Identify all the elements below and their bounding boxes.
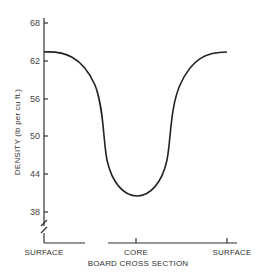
y-tick-label: 50: [30, 131, 40, 141]
y-tick-label: 44: [30, 169, 40, 179]
density-chart: 68 62 56 50 44 38 SURFACE CORE SURFACE B…: [0, 0, 258, 278]
x-axis-title: BOARD CROSS SECTION: [88, 259, 189, 268]
x-tick-label-core: CORE: [124, 248, 148, 257]
y-tick-label: 68: [30, 18, 40, 28]
y-axis-title: DENSITY (lb per cu ft.): [13, 89, 22, 175]
x-axis: [44, 238, 237, 243]
x-tick-labels: SURFACE CORE SURFACE: [24, 248, 251, 257]
x-tick-label-surface-left: SURFACE: [24, 248, 63, 257]
y-axis-break-mark: [41, 227, 47, 233]
y-tick-label: 38: [30, 207, 40, 217]
x-tick-label-surface-right: SURFACE: [212, 248, 251, 257]
y-tick-label: 56: [30, 94, 40, 104]
y-tick-labels: 68 62 56 50 44 38: [30, 18, 40, 217]
density-curve: [44, 52, 227, 196]
y-tick-label: 62: [30, 56, 40, 66]
